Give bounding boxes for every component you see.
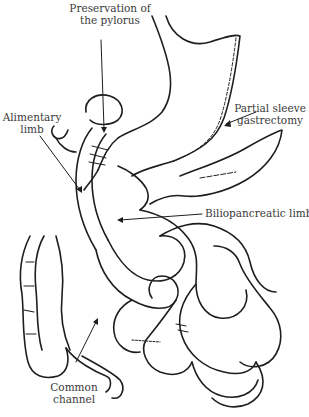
label-alimentary-limb: Alimentary limb (2, 111, 62, 135)
label-biliopancreatic-limb: Biliopancreatic limb (205, 207, 305, 219)
pylorus-drawing (76, 95, 122, 250)
small-intestine-drawing (96, 210, 281, 407)
label-line: Alimentary (2, 111, 62, 123)
colon-drawing (20, 236, 122, 398)
label-line: Partial sleeve (232, 102, 308, 114)
label-line: channel (44, 393, 104, 405)
label-line: Preservation of (60, 2, 160, 14)
label-line: limb (2, 123, 62, 135)
label-line: the pylorus (60, 14, 160, 26)
stomach-sleeve-drawing (84, 16, 240, 190)
label-common-channel: Common channel (44, 381, 104, 405)
label-line: gastrectomy (232, 114, 308, 126)
label-preservation-of-pylorus: Preservation of the pylorus (60, 2, 160, 26)
label-line: Biliopancreatic limb (205, 207, 305, 219)
surgical-diagram: Preservation of the pylorus Partial slee… (0, 0, 309, 417)
label-line: Common (44, 381, 104, 393)
label-partial-sleeve-gastrectomy: Partial sleeve gastrectomy (232, 102, 308, 126)
